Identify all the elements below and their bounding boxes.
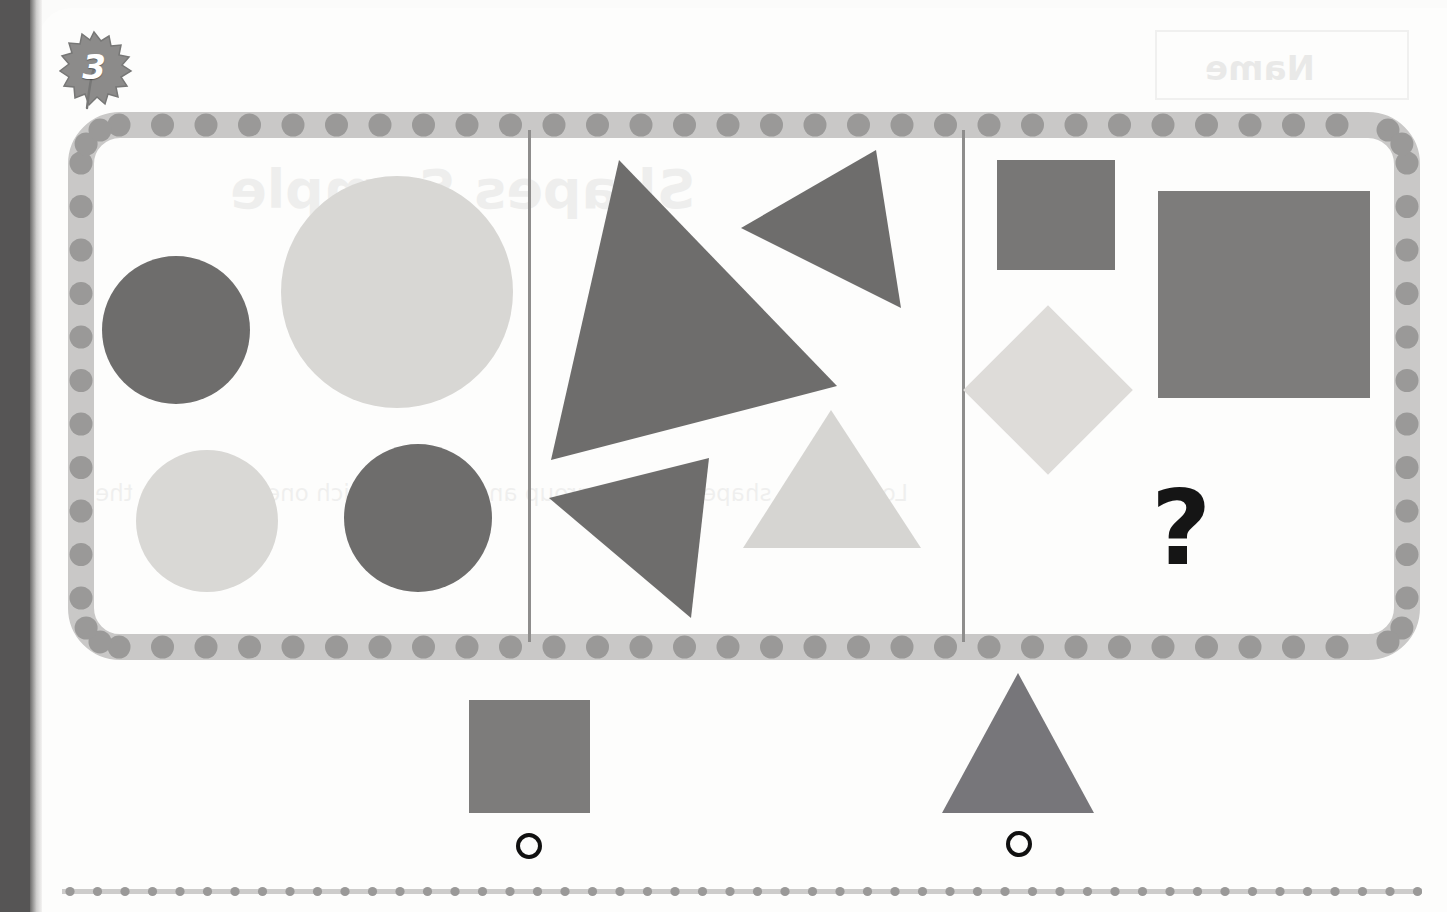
- small-dark-triangle-left: [549, 458, 709, 618]
- light-triangle-upright: [743, 410, 921, 548]
- showthrough-name-box: [1155, 30, 1409, 100]
- scan-edge-band: [0, 0, 30, 912]
- gray-square-option: [469, 700, 590, 813]
- answer-choices: [68, 665, 1420, 865]
- item-number-leaf-badge: 3: [56, 28, 138, 114]
- worksheet-page: Shapes Sample Name Look at the shapes in…: [0, 0, 1447, 912]
- medium-dark-circle: [344, 444, 492, 592]
- light-gray-diamond: [963, 305, 1133, 475]
- scan-edge-shadow: [30, 0, 42, 912]
- answer-option-a[interactable]: [388, 665, 688, 865]
- missing-shape-question-mark: ?: [1151, 476, 1211, 580]
- small-dark-circle: [102, 256, 250, 404]
- gray-triangle-option: [942, 673, 1094, 813]
- answer-option-b-art: [888, 665, 1188, 815]
- panel-circles: [94, 138, 528, 634]
- panel-squares: ?: [965, 138, 1394, 634]
- answer-bubble-a[interactable]: [516, 833, 542, 859]
- large-light-circle: [281, 176, 513, 408]
- item-number-label: 3: [56, 28, 132, 106]
- large-gray-square: [1158, 191, 1370, 398]
- small-gray-square: [997, 160, 1115, 270]
- medium-light-circle: [136, 450, 278, 592]
- answer-option-a-art: [388, 665, 688, 815]
- puzzle-panels: ?: [94, 138, 1394, 634]
- answer-bubble-b[interactable]: [1006, 831, 1032, 857]
- small-dark-triangle-right: [741, 150, 901, 308]
- panel-triangles: [531, 138, 962, 634]
- answer-option-b[interactable]: [888, 665, 1188, 865]
- bottom-dotted-rule: [62, 884, 1422, 897]
